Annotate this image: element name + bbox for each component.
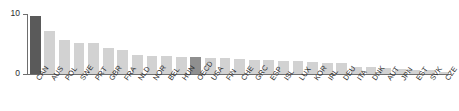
category-labels-container: CANAUSPOLSWEPRTGBRFRANLDNORBELHUNOECDUSA… bbox=[28, 76, 451, 111]
bar-slot bbox=[291, 14, 306, 74]
bar-slot bbox=[174, 14, 189, 74]
bar-slot bbox=[232, 14, 247, 74]
label-slot: KOR bbox=[305, 76, 320, 111]
label-slot: ESP bbox=[262, 76, 277, 111]
label-slot: GBR bbox=[101, 76, 116, 111]
label-slot: SWE bbox=[72, 76, 87, 111]
label-slot: FRA bbox=[116, 76, 131, 111]
label-slot: CZE bbox=[437, 76, 452, 111]
bar-slot bbox=[305, 14, 320, 74]
y-tick-mark-bottom bbox=[23, 74, 27, 75]
y-tick-mark-top bbox=[23, 14, 27, 15]
label-slot: USA bbox=[203, 76, 218, 111]
bar-slot bbox=[437, 14, 452, 74]
label-slot: FIN bbox=[218, 76, 233, 111]
label-slot: IRL bbox=[320, 76, 335, 111]
label-slot: CHE bbox=[232, 76, 247, 111]
label-slot: GRC bbox=[247, 76, 262, 111]
label-slot: ISL bbox=[276, 76, 291, 111]
y-tick-label-bottom: 0 bbox=[2, 69, 20, 78]
label-slot: POL bbox=[57, 76, 72, 111]
label-slot: LUX bbox=[291, 76, 306, 111]
label-slot: AUS bbox=[43, 76, 58, 111]
bar-slot bbox=[364, 14, 379, 74]
label-slot: JPN bbox=[393, 76, 408, 111]
label-slot: PRT bbox=[86, 76, 101, 111]
bar-slot bbox=[407, 14, 422, 74]
bar-slot bbox=[72, 14, 87, 74]
label-slot: DNK bbox=[364, 76, 379, 111]
label-slot: ITA bbox=[349, 76, 364, 111]
y-tick-label-top: 10 bbox=[2, 9, 20, 18]
bar-slot bbox=[145, 14, 160, 74]
label-slot: NLD bbox=[130, 76, 145, 111]
bar-slot bbox=[28, 14, 43, 74]
bar-can[interactable] bbox=[30, 16, 41, 74]
label-slot: AUT bbox=[378, 76, 393, 111]
label-slot: HUN bbox=[174, 76, 189, 111]
label-slot: SVK bbox=[422, 76, 437, 111]
label-slot: OECD bbox=[189, 76, 204, 111]
label-slot: BEL bbox=[159, 76, 174, 111]
label-slot: CAN bbox=[28, 76, 43, 111]
label-slot: NOR bbox=[145, 76, 160, 111]
label-slot: DEU bbox=[334, 76, 349, 111]
label-slot: EST bbox=[407, 76, 422, 111]
bar-slot bbox=[334, 14, 349, 74]
